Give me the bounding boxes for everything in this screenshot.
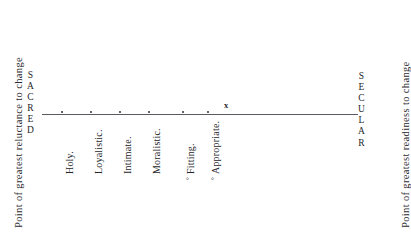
- left-pole-sacred: SACRED: [27, 70, 34, 137]
- secular-letter-3: U: [358, 104, 365, 115]
- sacred-letter-0: S: [28, 70, 33, 81]
- secular-letter-4: L: [359, 115, 365, 126]
- item-label-appropriate: Appropriate.: [210, 121, 221, 174]
- axis-tick-dot: [207, 111, 209, 113]
- item-label-intimate: Intimate.: [122, 136, 133, 174]
- secular-letter-1: E: [359, 82, 365, 93]
- axis-tick-dot: [148, 111, 150, 113]
- axis-tick-dot: [61, 111, 63, 113]
- sacred-letter-1: A: [27, 81, 34, 92]
- sacred-letter-2: C: [27, 92, 34, 103]
- secular-letter-0: S: [359, 71, 364, 82]
- secular-letter-6: R: [358, 138, 365, 149]
- item-label-loyalistic: Loyalistic.: [93, 129, 104, 174]
- secular-letter-2: C: [358, 93, 365, 104]
- item-circle-marker: °: [185, 177, 193, 180]
- axis-tick-dot: [90, 111, 92, 113]
- item-label-fitting: Fitting.: [185, 143, 196, 174]
- right-pole-secular: SECULAR: [358, 71, 365, 149]
- sacred-letter-3: R: [27, 103, 34, 114]
- item-label-holy: Holy.: [64, 151, 75, 174]
- axis-tick-dot: [182, 111, 184, 113]
- item-label-moralistic: Moralistic.: [151, 128, 162, 174]
- x-point-marker: x: [224, 100, 228, 110]
- right-axis-caption: Point of greatest readiness to change: [400, 61, 411, 228]
- sacred-letter-5: D: [27, 125, 34, 136]
- item-circle-marker: °: [210, 177, 218, 180]
- secular-letter-5: A: [358, 126, 365, 137]
- left-axis-caption: Point of greatest reluctance to change: [13, 57, 24, 228]
- sacred-letter-4: E: [28, 114, 34, 125]
- axis-tick-dot: [119, 111, 121, 113]
- continuum-axis-line: [42, 114, 358, 115]
